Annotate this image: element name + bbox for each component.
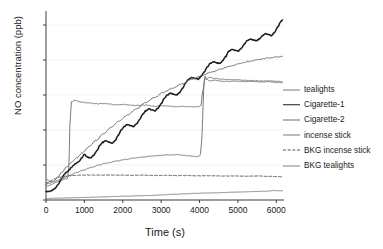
x-tick-label: 1000 xyxy=(64,206,104,215)
legend-item-label: Cigarette-1 xyxy=(304,100,345,109)
y-axis-title: NO concentration (ppb) xyxy=(12,0,23,146)
legend-item[interactable]: tealights xyxy=(283,82,383,97)
legend-item[interactable]: Cigarette-2 xyxy=(283,112,383,127)
legend-line-swatch xyxy=(283,100,300,110)
legend-line-swatch xyxy=(283,130,300,140)
legend-line-swatch xyxy=(283,115,300,125)
legend-item-label: incense stick xyxy=(304,131,351,140)
x-tick-label: 4000 xyxy=(180,206,220,215)
x-tick-label: 5000 xyxy=(218,206,258,215)
legend-line-swatch xyxy=(283,161,300,171)
x-tick-label: 3000 xyxy=(141,206,181,215)
x-axis-title: Time (s) xyxy=(46,226,284,238)
legend-item-label: tealights xyxy=(304,85,335,94)
legend-line-swatch xyxy=(283,85,300,95)
legend-item-label: BKG incense stick xyxy=(304,146,370,155)
x-tick-label: 0 xyxy=(26,206,66,215)
legend-item[interactable]: Cigarette-1 xyxy=(283,97,383,112)
legend-item-label: BKG tealights xyxy=(304,161,354,170)
legend-item[interactable]: BKG tealights xyxy=(283,158,383,173)
no-concentration-line-chart: 020406080100 0100020003000400050006000 N… xyxy=(0,0,383,249)
legend-item-label: Cigarette-2 xyxy=(304,115,345,124)
x-tick-label: 6000 xyxy=(256,206,296,215)
legend-item[interactable]: BKG incense stick xyxy=(283,143,383,158)
x-tick-label: 2000 xyxy=(103,206,143,215)
legend-line-swatch xyxy=(283,145,300,155)
legend-item[interactable]: incense stick xyxy=(283,128,383,143)
chart-legend: tealightsCigarette-1Cigarette-2incense s… xyxy=(283,82,383,173)
